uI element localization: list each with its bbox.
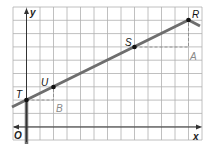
- label-u: U: [41, 77, 49, 88]
- x-axis-label: x: [192, 131, 199, 142]
- label-r: R: [192, 9, 199, 20]
- origin-label: O: [14, 130, 22, 141]
- label-t: T: [16, 89, 23, 100]
- point-r: [186, 18, 191, 23]
- y-axis-label: y: [29, 7, 36, 18]
- label-s: S: [125, 37, 132, 48]
- point-t: [24, 98, 29, 103]
- label-b: B: [56, 103, 63, 114]
- y-axis-arrow-up-icon: [24, 8, 29, 14]
- x-axis-arrow-left-icon: [13, 125, 19, 130]
- coordinate-graph: y x O T U S R A B: [0, 0, 213, 149]
- label-a: A: [189, 51, 197, 62]
- x-axis-arrow-right-icon: [196, 125, 202, 130]
- point-u: [51, 85, 56, 90]
- point-s: [132, 45, 137, 50]
